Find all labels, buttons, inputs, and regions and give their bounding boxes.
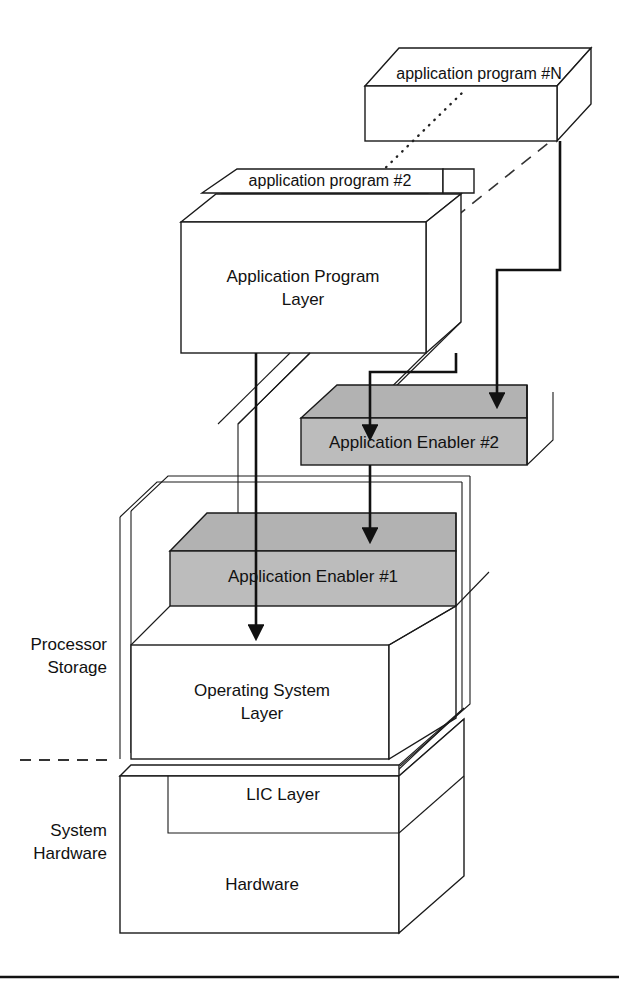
connector-program-n-to-enabler2 [497, 141, 560, 405]
app-program-layer-side-face [426, 194, 461, 353]
app-program-2-right-face [443, 169, 474, 193]
os-layer-platform-edge [131, 606, 170, 645]
os-layer-outer-top-edge [120, 482, 462, 517]
enabler-2-top-face [301, 385, 527, 418]
hardware-side-face [399, 719, 464, 933]
app-program-layer-front-face [181, 222, 426, 353]
processor-storage-label-line2: Storage [47, 658, 107, 677]
app-layer-depth-edge-5 [238, 353, 310, 530]
system-hardware-label-line2: Hardware [33, 844, 107, 863]
app-program-layer-label-line1: Application Program [226, 267, 379, 286]
lic-layer-label: LIC Layer [246, 785, 320, 804]
enabler-2-block [301, 385, 553, 465]
hardware-top-bevel [120, 765, 399, 776]
os-layer-label-line1: Operating System [194, 681, 330, 700]
app-program-layer-label-line2: Layer [282, 290, 325, 309]
enabler-2-depth-edge [527, 392, 553, 465]
processor-storage-label-line1: Processor [30, 635, 107, 654]
enabler-2-label: Application Enabler #2 [329, 433, 499, 452]
os-layer-label-line2: Layer [241, 704, 284, 723]
app-layer-depth-edge-1 [218, 353, 290, 424]
app-program-n-label: application program #N [396, 65, 561, 82]
app-program-n-block [365, 48, 591, 141]
app-program-2-label: application program #2 [249, 172, 412, 189]
app-program-layer-top-face [181, 194, 461, 222]
hardware-label: Hardware [225, 875, 299, 894]
enabler-1-top-face [170, 513, 456, 551]
os-layer-outer-top-edge-2 [131, 476, 470, 511]
system-hardware-label-line1: System [50, 821, 107, 840]
enabler-1-depth-edge [456, 572, 489, 606]
enabler-1-label: Application Enabler #1 [228, 567, 398, 586]
os-layer-front-face [131, 645, 389, 759]
diagram-canvas: application program #N application progr… [0, 0, 619, 984]
layered-architecture-diagram: application program #N application progr… [0, 0, 619, 984]
enabler-1-block [170, 513, 489, 606]
